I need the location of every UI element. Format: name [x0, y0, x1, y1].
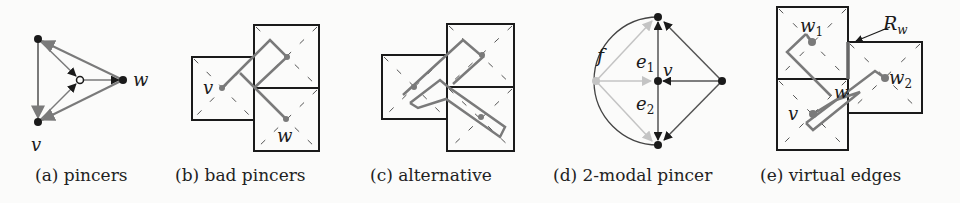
node-center [77, 77, 84, 84]
caption-c: (c) alternative [370, 165, 492, 185]
node-w [119, 76, 127, 84]
svg-text:w1: w1 [800, 15, 823, 39]
node-v [34, 118, 42, 126]
label-v: v [663, 60, 673, 80]
subfigure-b-bad-pincers: v w [192, 25, 319, 151]
label-w: w [277, 125, 293, 146]
label-w: w [133, 69, 149, 90]
caption-d: (d) 2-modal pincer [553, 165, 712, 185]
label-v: v [203, 77, 213, 98]
svg-text:w2: w2 [889, 67, 912, 91]
subfigure-d-2-modal-pincer: f e1 v e2 [592, 13, 726, 149]
subfigure-a-pincers: w v [31, 35, 149, 155]
caption-a: (a) pincers [35, 165, 128, 185]
label-w2: w [889, 67, 905, 88]
subfigure-e-virtual-edges: w1 w2 w v Rw [777, 7, 922, 150]
label-w: w [834, 82, 849, 102]
label-v: v [788, 103, 798, 124]
label-e2: e [636, 93, 647, 114]
label-Rw: R [882, 12, 897, 34]
caption-b: (b) bad pincers [175, 165, 306, 185]
subfigure-c-alternative [382, 24, 514, 151]
caption-e: (e) virtual edges [760, 165, 901, 185]
node-top [34, 35, 42, 43]
svg-text:e1: e1 [636, 51, 654, 75]
label-e1: e [636, 51, 647, 72]
label-f: f [595, 44, 607, 66]
svg-text:e2: e2 [636, 93, 654, 117]
label-v: v [31, 134, 41, 155]
label-w1: w [800, 15, 816, 36]
svg-text:Rw: Rw [882, 12, 908, 37]
